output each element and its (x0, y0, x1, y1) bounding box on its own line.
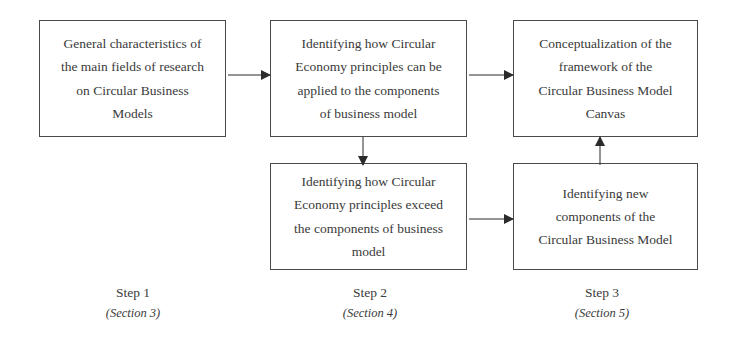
box-text-line: of business model (320, 102, 418, 125)
box-text-line: General characteristics of (64, 32, 202, 55)
step-title: Step 3 (502, 283, 702, 303)
arrowhead-down-icon (358, 156, 368, 166)
arrowhead-right-icon (504, 214, 514, 224)
step-section-reference: (Section 3) (33, 303, 233, 323)
step-title: Step 2 (270, 283, 470, 303)
arrow-connector-box6-to-box3 (590, 137, 610, 165)
box-text-line: Models (112, 102, 153, 125)
box-text-line: on Circular Business (76, 79, 189, 102)
process-box-conceptualization-framework: Conceptualization of the framework of th… (513, 20, 698, 137)
box-text-line: Conceptualization of the (539, 32, 672, 55)
box-text-line: Identifying how Circular (301, 32, 435, 55)
box-text-line: components of the (556, 205, 656, 228)
box-text-line: the components of business (294, 217, 443, 240)
step-title: Step 1 (33, 283, 233, 303)
box-text-line: the main fields of research (61, 55, 204, 78)
arrowhead-right-icon (261, 70, 271, 80)
box-text-line: Circular Business Model (538, 228, 672, 251)
step-caption-1: Step 1 (Section 3) (33, 283, 233, 323)
step-caption-3: Step 3 (Section 5) (502, 283, 702, 323)
box-text-line: framework of the (559, 55, 653, 78)
box-text-line: applied to the components (297, 79, 439, 102)
process-box-principles-applied: Identifying how Circular Economy princip… (270, 20, 467, 137)
process-box-general-characteristics: General characteristics of the main fiel… (39, 20, 226, 137)
arrow-connector-box2-to-box5 (353, 137, 373, 165)
flowchart-diagram: General characteristics of the main fiel… (0, 0, 729, 337)
arrow-connector-box2-to-box3 (469, 65, 513, 85)
box-text-line: Economy principles can be (295, 55, 442, 78)
arrow-connector-box1-to-box2 (228, 65, 270, 85)
arrowhead-up-icon (595, 136, 605, 146)
arrowhead-right-icon (504, 70, 514, 80)
step-caption-2: Step 2 (Section 4) (270, 283, 470, 323)
box-text-line: Identifying how Circular (301, 170, 435, 193)
box-text-line: model (352, 240, 386, 263)
process-box-new-components: Identifying new components of the Circul… (513, 163, 698, 270)
process-box-principles-exceed: Identifying how Circular Economy princip… (270, 163, 467, 270)
box-text-line: Identifying new (563, 182, 649, 205)
box-text-line: Circular Business Model (538, 79, 672, 102)
arrow-connector-box5-to-box6 (469, 209, 513, 229)
step-section-reference: (Section 5) (502, 303, 702, 323)
box-text-line: Economy principles exceed (294, 193, 443, 216)
box-text-line: Canvas (586, 102, 626, 125)
step-section-reference: (Section 4) (270, 303, 470, 323)
